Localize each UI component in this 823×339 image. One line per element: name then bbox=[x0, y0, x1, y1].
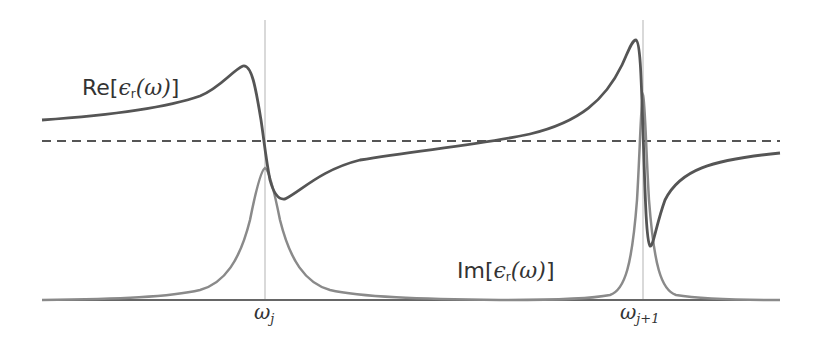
re-label-epsilon: ϵr bbox=[118, 75, 135, 100]
omega-subscript: j+1 bbox=[636, 311, 659, 326]
im-label-epsilon: ϵr bbox=[494, 258, 511, 283]
epsilon-symbol: ϵ bbox=[494, 258, 506, 283]
epsilon-symbol: ϵ bbox=[118, 75, 130, 100]
im-label-arg: (ω) bbox=[511, 258, 546, 283]
re-epsilon-label: Re[ϵr(ω)] bbox=[82, 77, 179, 100]
im-curve bbox=[42, 95, 780, 300]
re-label-prefix: Re[ bbox=[82, 75, 118, 100]
im-label-prefix: Im[ bbox=[457, 258, 494, 283]
omega-subscript: j bbox=[270, 311, 274, 326]
omega-symbol: ω bbox=[620, 300, 636, 324]
dielectric-diagram bbox=[0, 0, 823, 339]
im-epsilon-label: Im[ϵr(ω)] bbox=[457, 260, 554, 283]
re-label-suffix: ] bbox=[171, 75, 180, 100]
re-label-arg: (ω) bbox=[136, 75, 171, 100]
im-label-suffix: ] bbox=[546, 258, 555, 283]
omega-j-tick-label: ωj bbox=[254, 302, 274, 325]
omega-symbol: ω bbox=[254, 300, 270, 324]
omega-j-plus-1-tick-label: ωj+1 bbox=[620, 302, 660, 325]
re-curve bbox=[42, 40, 780, 246]
